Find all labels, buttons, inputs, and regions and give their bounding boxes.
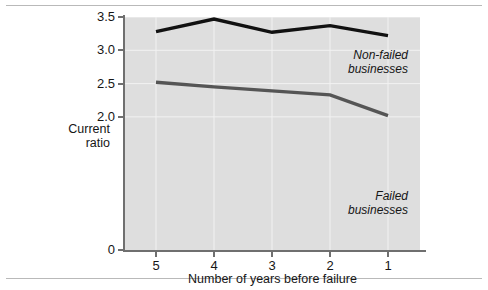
chart-figure: 0 2.0 2.5 3.0 3.5 5 4 3 2 1 Current rati… [0, 0, 488, 290]
y-tick-mark [118, 49, 124, 51]
series-annotation-non-failed: Non-failed businesses [278, 49, 408, 76]
y-tick-label-3-0: 3.0 [75, 42, 115, 57]
y-axis-title: Current ratio [40, 122, 110, 150]
y-tick-mark [118, 83, 124, 85]
annotation-non-failed-line1: Non-failed [278, 49, 408, 63]
x-tick-label-2: 2 [315, 258, 345, 273]
y-tick-label-2-5: 2.5 [75, 76, 115, 91]
x-axis-line [123, 250, 426, 252]
annotation-failed-line1: Failed [278, 190, 408, 204]
x-tick-label-1: 1 [373, 258, 403, 273]
y-tick-mark [118, 116, 124, 118]
x-tick-mark [155, 252, 157, 257]
top-divider-rule [6, 5, 482, 6]
y-tick-label-0: 0 [75, 242, 115, 257]
annotation-failed-line2: businesses [278, 204, 408, 218]
y-tick-mark [118, 16, 124, 18]
x-tick-label-4: 4 [199, 258, 229, 273]
y-tick-label-3-5: 3.5 [75, 9, 115, 24]
annotation-non-failed-line2: businesses [278, 63, 408, 77]
x-tick-mark [271, 252, 273, 257]
y-tick-mark [118, 249, 124, 251]
x-tick-mark [329, 252, 331, 257]
y-axis-title-line1: Current [40, 122, 110, 136]
x-tick-label-5: 5 [141, 258, 171, 273]
x-tick-label-3: 3 [257, 258, 287, 273]
series-annotation-failed: Failed businesses [278, 190, 408, 217]
y-axis-title-line2: ratio [40, 136, 110, 150]
x-tick-mark [213, 252, 215, 257]
x-axis-title: Number of years before failure [125, 272, 420, 286]
x-tick-mark [387, 252, 389, 257]
